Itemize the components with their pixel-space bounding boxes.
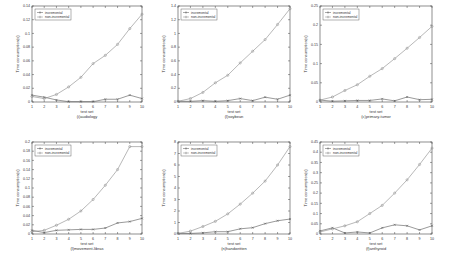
x-tick-label: 4 xyxy=(214,237,216,241)
y-axis-label: Time consumption(s) xyxy=(161,169,166,207)
legend-label: incremental xyxy=(333,11,351,15)
x-tick-label: 10 xyxy=(430,105,434,109)
x-tick-label: 3 xyxy=(202,105,204,109)
y-tick-label: 0.3 xyxy=(313,171,318,175)
legend-label: non-incremental xyxy=(333,15,358,19)
x-tick-label: 7 xyxy=(104,105,106,109)
y-tick-label: 0.2 xyxy=(313,191,318,195)
legend-label: incremental xyxy=(333,147,351,151)
x-tick-label: 10 xyxy=(430,237,434,241)
y-tick-label: 0.12 xyxy=(23,177,30,181)
y-tick-label: 0.1 xyxy=(313,62,318,66)
x-tick-label: 1 xyxy=(319,237,321,241)
x-tick-label: 8 xyxy=(406,237,408,241)
y-tick-label: 0 xyxy=(28,100,30,104)
y-tick-label: 0.08 xyxy=(23,195,30,199)
x-tick-label: 8 xyxy=(117,237,119,241)
y-tick-label: 0.02 xyxy=(23,223,30,227)
x-tick-label: 3 xyxy=(55,105,57,109)
x-tick-label: 3 xyxy=(344,237,346,241)
x-tick-label: 7 xyxy=(394,237,396,241)
x-tick-label: 4 xyxy=(356,237,358,241)
x-tick-label: 2 xyxy=(43,237,45,241)
x-tick-label: 2 xyxy=(189,105,191,109)
y-tick-label: 0.2 xyxy=(171,86,176,90)
y-tick-label: 0.25 xyxy=(311,181,318,185)
y-axis-label: Time consumption(s) xyxy=(303,169,308,207)
chart-panel-6: 1234567891000.050.10.150.20.250.30.350.4… xyxy=(303,140,434,251)
x-tick-label: 10 xyxy=(288,237,292,241)
legend-label: incremental xyxy=(191,147,209,151)
plot-area xyxy=(178,6,290,102)
y-tick-label: 1 xyxy=(174,221,176,225)
y-tick-label: 8 xyxy=(174,140,176,144)
y-tick-label: 7 xyxy=(174,152,176,156)
y-tick-label: 0.12 xyxy=(23,18,30,22)
y-axis-label: Time consumption(s) xyxy=(303,35,308,73)
x-tick-label: 10 xyxy=(140,237,144,241)
x-tick-label: 4 xyxy=(356,105,358,109)
x-tick-label: 7 xyxy=(394,105,396,109)
legend-label: non-incremental xyxy=(45,151,70,155)
panel-caption: (l)movement-libras xyxy=(70,246,103,251)
x-tick-label: 9 xyxy=(419,237,421,241)
y-tick-label: 0.15 xyxy=(311,43,318,47)
plot-area xyxy=(32,6,142,102)
panel-caption: (l)soybean xyxy=(225,114,244,119)
y-tick-label: 5 xyxy=(174,175,176,179)
y-tick-label: 1.2 xyxy=(171,18,176,22)
x-tick-label: 8 xyxy=(406,105,408,109)
x-tick-label: 1 xyxy=(177,105,179,109)
x-tick-label: 9 xyxy=(129,105,131,109)
y-tick-label: 6 xyxy=(174,163,176,167)
x-tick-label: 7 xyxy=(252,105,254,109)
panel-caption: (f)anthyroid xyxy=(366,246,386,251)
y-tick-label: 0.06 xyxy=(23,205,30,209)
x-tick-label: 3 xyxy=(202,237,204,241)
y-tick-label: 0 xyxy=(316,100,318,104)
x-tick-label: 3 xyxy=(55,237,57,241)
x-tick-label: 4 xyxy=(68,237,70,241)
y-tick-label: 0.05 xyxy=(311,81,318,85)
y-tick-label: 0.14 xyxy=(23,4,30,8)
x-tick-label: 7 xyxy=(252,237,254,241)
chart-panel-5: 12345678910012345678test set(n)handwritt… xyxy=(161,140,292,251)
y-tick-label: 0.4 xyxy=(313,150,318,154)
y-tick-label: 2 xyxy=(174,209,176,213)
y-axis-label: Time consumption(s) xyxy=(15,35,20,73)
y-tick-label: 0.05 xyxy=(311,222,318,226)
y-tick-label: 0.45 xyxy=(311,140,318,144)
x-tick-label: 2 xyxy=(331,237,333,241)
x-tick-label: 9 xyxy=(277,237,279,241)
y-tick-label: 0.1 xyxy=(25,32,30,36)
y-tick-label: 4 xyxy=(174,186,176,190)
x-tick-label: 1 xyxy=(31,105,33,109)
chart-panel-4: 1234567891000.020.040.060.080.10.120.140… xyxy=(15,140,144,251)
y-tick-label: 0.18 xyxy=(23,149,30,153)
legend-label: non-incremental xyxy=(45,15,70,19)
y-tick-label: 0.02 xyxy=(23,86,30,90)
x-tick-label: 9 xyxy=(129,237,131,241)
y-tick-label: 0.08 xyxy=(23,45,30,49)
x-tick-label: 8 xyxy=(117,105,119,109)
panel-caption: (n)handwritten xyxy=(221,246,247,251)
legend-label: incremental xyxy=(191,11,209,15)
y-tick-label: 0.8 xyxy=(171,45,176,49)
x-tick-label: 9 xyxy=(419,105,421,109)
x-tick-label: 3 xyxy=(344,105,346,109)
x-tick-label: 7 xyxy=(104,237,106,241)
y-tick-label: 0.06 xyxy=(23,59,30,63)
legend-label: incremental xyxy=(45,147,63,151)
panel-caption: (c)primary-tumor xyxy=(361,114,391,119)
chart-panel-2: 1234567891000.20.40.60.811.21.4test set(… xyxy=(161,4,292,119)
x-tick-label: 2 xyxy=(189,237,191,241)
legend-label: non-incremental xyxy=(191,15,216,19)
y-tick-label: 0.25 xyxy=(311,4,318,8)
y-tick-label: 0.35 xyxy=(311,161,318,165)
y-tick-label: 0 xyxy=(316,232,318,236)
y-tick-label: 0.04 xyxy=(23,214,30,218)
x-tick-label: 10 xyxy=(288,105,292,109)
x-tick-label: 8 xyxy=(264,105,266,109)
x-tick-label: 4 xyxy=(214,105,216,109)
x-tick-label: 1 xyxy=(319,105,321,109)
